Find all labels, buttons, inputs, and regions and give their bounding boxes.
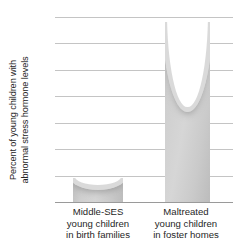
- y-axis-title-text: Percent of young children with abnormal …: [7, 56, 32, 183]
- bar-cap-shading: [165, 22, 210, 112]
- bar-chart: Percent of young children with abnormal …: [0, 0, 239, 250]
- plot-area: 05101520253035: [55, 17, 233, 202]
- y-axis-title: Percent of young children with abnormal …: [2, 20, 36, 220]
- bar-cap-shading: [73, 178, 123, 190]
- bar-0: [73, 178, 123, 202]
- bar-1: [165, 22, 210, 202]
- x-axis-category-label-1: Maltreated young children in foster home…: [133, 206, 239, 241]
- x-axis-baseline: [55, 202, 233, 203]
- gridline: [55, 17, 233, 18]
